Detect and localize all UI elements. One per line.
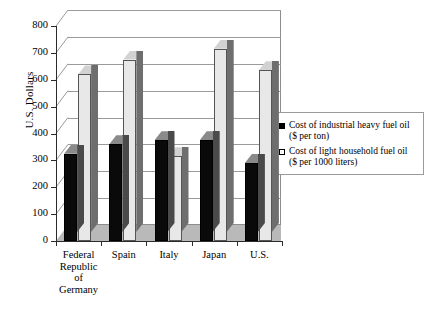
y-axis-tick	[51, 214, 56, 215]
bar-front-face	[200, 140, 213, 241]
bar-side-face	[136, 51, 143, 232]
y-axis-tick-label: 0	[18, 235, 48, 245]
y-axis-tick-label: 800	[18, 20, 48, 30]
chart-legend: Cost of industrial heavy fuel oil ($ per…	[272, 112, 424, 175]
x-axis-tick	[56, 241, 57, 246]
y-axis-tick-label: 300	[18, 154, 48, 164]
bar-side-face	[168, 131, 175, 232]
gridline	[68, 37, 281, 38]
y-axis-tick	[51, 26, 56, 27]
y-axis-tick	[51, 80, 56, 81]
legend-label: Cost of industrial heavy fuel oil ($ per…	[289, 120, 410, 142]
gridline	[68, 64, 281, 65]
y-axis-tick	[51, 160, 56, 161]
y-axis-tick-label: 100	[18, 208, 48, 218]
bar-side-face	[227, 40, 234, 232]
legend-item-light-household-fuel-oil: Cost of light household fuel oil ($ per …	[278, 146, 419, 168]
legend-item-industrial-heavy-fuel-oil: Cost of industrial heavy fuel oil ($ per…	[278, 120, 419, 142]
y-axis-tick-label: 200	[18, 181, 48, 191]
bar-industrial-heavy-fuel-oil	[64, 154, 77, 241]
y-axis-tick	[51, 134, 56, 135]
bar-side-face	[258, 154, 265, 232]
gridline	[68, 144, 281, 145]
x-axis-tick	[237, 241, 238, 246]
x-axis-line	[56, 241, 282, 242]
gridline	[68, 10, 281, 11]
y-axis-title: U.S. Dollars	[23, 45, 35, 155]
bar-side-face	[182, 147, 189, 232]
y-axis-tick	[51, 53, 56, 54]
bar-industrial-heavy-fuel-oil	[155, 140, 168, 241]
bar-side-face	[272, 61, 279, 232]
bar-front-face	[245, 163, 258, 241]
y-axis-tick	[51, 107, 56, 108]
gridline	[68, 91, 281, 92]
bar-industrial-heavy-fuel-oil	[200, 140, 213, 241]
x-axis-tick	[282, 241, 283, 246]
bar-industrial-heavy-fuel-oil	[245, 163, 258, 241]
y-axis-line	[56, 26, 57, 242]
legend-label: Cost of light household fuel oil ($ per …	[289, 146, 407, 168]
legend-swatch-filled-square-icon	[279, 123, 285, 129]
x-axis-tick	[146, 241, 147, 246]
x-axis-label: U.S.	[221, 249, 297, 261]
x-axis-tick	[192, 241, 193, 246]
gridline	[68, 118, 281, 119]
bar-industrial-heavy-fuel-oil	[109, 144, 122, 241]
bar-side-face	[122, 135, 129, 232]
bar-front-face	[64, 154, 77, 241]
bar-side-face	[91, 65, 98, 232]
bar-side-face	[213, 131, 220, 232]
legend-swatch-hollow-square-icon	[279, 149, 285, 155]
bar-front-face	[109, 144, 122, 241]
bar-chart: 0100200300400500600700800 Federal Republ…	[0, 0, 429, 315]
bar-side-face	[77, 145, 84, 232]
y-axis-tick	[51, 187, 56, 188]
x-axis-tick	[101, 241, 102, 246]
bar-front-face	[155, 140, 168, 241]
